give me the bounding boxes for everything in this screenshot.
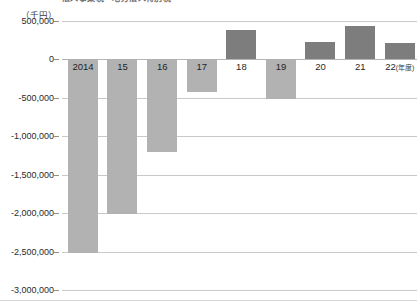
bar-22 xyxy=(385,43,415,60)
y-axis-tick-mark xyxy=(54,98,59,99)
gridline xyxy=(62,21,417,22)
gridline xyxy=(62,252,417,253)
x-axis-tick-label: 16 xyxy=(157,61,168,72)
x-axis-unit-label: (年度) xyxy=(396,64,415,71)
x-axis-tick: 17 xyxy=(182,60,222,74)
x-axis-tick: 19 xyxy=(261,60,301,74)
x-axis-tick-label: 20 xyxy=(315,61,326,72)
x-axis-tick-label: 15 xyxy=(117,61,128,72)
y-axis-tick-mark xyxy=(54,290,59,291)
bar-20 xyxy=(305,42,335,60)
bar-15 xyxy=(107,59,137,213)
y-axis-tick-label: 500,000 xyxy=(0,16,54,26)
y-axis-tick-label: -1,000,000 xyxy=(0,131,54,141)
x-axis-tick-label: 2014 xyxy=(72,61,93,72)
y-axis-labels: 500,0000-500,000-1,000,000-1,500,000-2,0… xyxy=(0,21,58,290)
chart-title-clipped: 法人事業税・地方法人特別税 xyxy=(62,0,232,5)
y-axis-tick-mark xyxy=(54,59,59,60)
y-axis-tick-label: -3,000,000 xyxy=(0,285,54,295)
chart-title: 法人事業税・地方法人特別税 xyxy=(62,0,171,3)
x-axis-tick-label: 21 xyxy=(355,61,366,72)
y-axis-tick-mark xyxy=(54,213,59,214)
y-axis-tick-label: -2,000,000 xyxy=(0,208,54,218)
x-axis-tick: 15 xyxy=(103,60,143,74)
x-axis-tick: 2014 xyxy=(63,60,103,74)
chart-container: 法人事業税・地方法人特別税 （千円） 500,0000-500,000-1,00… xyxy=(0,0,417,301)
x-axis-tick: 22(年度) xyxy=(372,60,417,75)
y-axis-tick-label: 0 xyxy=(0,54,54,64)
x-axis-tick: 20 xyxy=(301,60,341,74)
x-axis-tick-label: 19 xyxy=(276,61,287,72)
x-axis-tick-label: 17 xyxy=(197,61,208,72)
y-axis-tick-mark xyxy=(54,252,59,253)
gridline xyxy=(62,290,417,291)
bar-2014 xyxy=(68,59,98,253)
y-axis-tick-mark xyxy=(54,175,59,176)
y-axis-tick-label: -2,500,000 xyxy=(0,247,54,257)
y-axis-tick-mark xyxy=(54,21,59,22)
y-axis-tick-label: -1,500,000 xyxy=(0,170,54,180)
x-axis-tick-label: 22 xyxy=(385,61,396,72)
x-axis-tick: 16 xyxy=(142,60,182,74)
y-axis-tick-label: -500,000 xyxy=(0,93,54,103)
x-axis-tick-label: 18 xyxy=(236,61,247,72)
x-axis-labels: 20141516171819202122(年度) xyxy=(62,60,417,76)
bar-18 xyxy=(226,30,256,59)
y-axis-tick-mark xyxy=(54,136,59,137)
bar-21 xyxy=(345,26,375,59)
x-axis-tick: 18 xyxy=(221,60,261,74)
